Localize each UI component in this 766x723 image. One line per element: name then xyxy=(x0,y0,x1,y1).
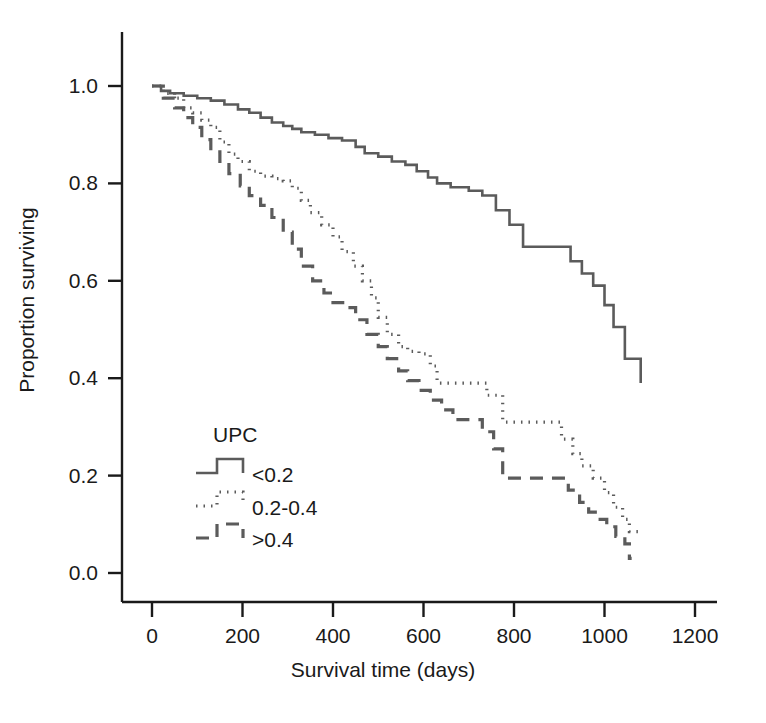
y-axis-ticks xyxy=(108,86,122,573)
chart-canvas xyxy=(0,0,766,723)
legend-title: UPC xyxy=(213,423,257,447)
x-tick-label: 1200 xyxy=(672,624,719,648)
survival-curve-1 xyxy=(152,86,641,383)
x-tick-label: 800 xyxy=(496,624,531,648)
legend-key-3 xyxy=(196,524,243,538)
legend-key-2 xyxy=(196,492,243,506)
survival-curve-2 xyxy=(152,86,641,532)
x-tick-label: 200 xyxy=(225,624,260,648)
legend-line-samples xyxy=(196,459,243,538)
series-group xyxy=(152,86,641,558)
x-tick-label: 1000 xyxy=(581,624,628,648)
legend-label-0-2-to-0-4: 0.2-0.4 xyxy=(252,496,317,520)
legend-label-gt-0-4: >0.4 xyxy=(252,528,293,552)
survival-chart-figure: 0.00.20.40.60.81.0 020040060080010001200… xyxy=(0,0,766,723)
legend-label-lt-0-2: <0.2 xyxy=(252,463,293,487)
x-tick-label: 0 xyxy=(146,624,158,648)
x-tick-label: 400 xyxy=(315,624,350,648)
y-axis-title-wrapper: Proportion surviving xyxy=(10,0,44,723)
x-axis-ticks xyxy=(152,602,695,617)
x-tick-label: 600 xyxy=(406,624,441,648)
legend-key-1 xyxy=(196,459,243,473)
x-axis-title: Survival time (days) xyxy=(0,658,766,682)
y-axis-title: Proportion surviving xyxy=(15,197,39,403)
axes-group xyxy=(108,32,717,617)
